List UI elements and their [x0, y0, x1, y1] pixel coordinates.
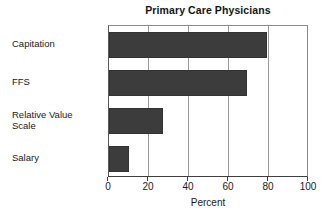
category-label: Relative Value Scale — [12, 109, 104, 132]
category-label: Salary — [12, 152, 104, 164]
gridline — [268, 26, 269, 176]
category-label: Capitation — [12, 38, 104, 50]
x-tick-label: 0 — [88, 181, 128, 192]
x-tick-label: 100 — [288, 181, 328, 192]
category-label: FFS — [12, 76, 104, 88]
bar — [109, 70, 247, 96]
bar — [109, 146, 129, 172]
bar — [109, 108, 163, 134]
x-tick-label: 80 — [248, 181, 288, 192]
plot-area — [108, 25, 308, 177]
bar-chart: Primary Care Physicians Percent Capitati… — [0, 0, 334, 220]
x-tick-label: 40 — [168, 181, 208, 192]
x-tick-label: 60 — [208, 181, 248, 192]
chart-title: Primary Care Physicians — [108, 4, 308, 16]
x-axis-title: Percent — [108, 197, 308, 208]
x-tick-label: 20 — [128, 181, 168, 192]
bar — [109, 32, 267, 58]
